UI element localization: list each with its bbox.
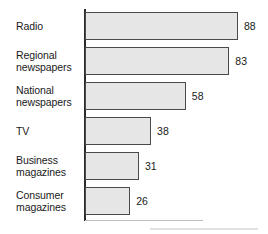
category-label: Regionalnewspapers — [16, 50, 82, 73]
bar — [85, 187, 130, 215]
category-label-line: National — [16, 85, 82, 97]
category-label-line: magazines — [16, 202, 82, 214]
category-label: Consumermagazines — [16, 190, 82, 213]
bar-and-value: 88 — [85, 12, 256, 40]
category-label-line: magazines — [16, 167, 82, 179]
bar-and-value: 58 — [85, 82, 204, 110]
bar-value-label: 88 — [244, 21, 256, 32]
bar-value-label: 38 — [157, 126, 169, 137]
bar-row: Radio88 — [0, 9, 268, 44]
category-label: Businessmagazines — [16, 155, 82, 178]
category-label-line: Radio — [16, 21, 82, 33]
bar-row: Businessmagazines31 — [0, 149, 268, 184]
bar-value-label: 83 — [235, 56, 247, 67]
bar-and-value: 38 — [85, 117, 169, 145]
x-axis-baseline — [85, 220, 203, 221]
bar-row: Regionalnewspapers83 — [0, 44, 268, 79]
bar — [85, 117, 151, 145]
bar-value-label: 26 — [136, 196, 148, 207]
category-label-line: Consumer — [16, 190, 82, 202]
category-label-line: newspapers — [16, 97, 82, 109]
category-label: TV — [16, 126, 82, 138]
bar-rows: Radio88Regionalnewspapers83Nationalnewsp… — [0, 9, 268, 219]
plot-area: Radio88Regionalnewspapers83Nationalnewsp… — [0, 0, 268, 234]
bar-and-value: 31 — [85, 152, 157, 180]
bar-row: Nationalnewspapers58 — [0, 79, 268, 114]
bar — [85, 12, 238, 40]
bar-value-label: 31 — [145, 161, 157, 172]
bar — [85, 82, 186, 110]
category-label-line: Business — [16, 155, 82, 167]
bar-chart: Radio88Regionalnewspapers83Nationalnewsp… — [0, 0, 268, 234]
bar — [85, 47, 229, 75]
category-label-line: TV — [16, 126, 82, 138]
bar-row: TV38 — [0, 114, 268, 149]
category-label: Nationalnewspapers — [16, 85, 82, 108]
bar-and-value: 83 — [85, 47, 247, 75]
category-label-line: newspapers — [16, 62, 82, 74]
page-edge-smudge — [150, 228, 258, 230]
bar — [85, 152, 139, 180]
bar-row: Consumermagazines26 — [0, 184, 268, 219]
category-label: Radio — [16, 21, 82, 33]
category-label-line: Regional — [16, 50, 82, 62]
bar-and-value: 26 — [85, 187, 148, 215]
bar-value-label: 58 — [192, 91, 204, 102]
